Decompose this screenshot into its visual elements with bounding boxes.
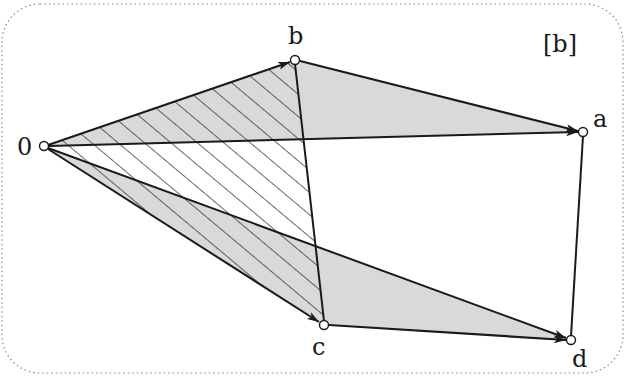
- vector-diagram: 0 b a c d [b]: [0, 0, 627, 377]
- point-a: [579, 128, 588, 137]
- point-b: [291, 56, 300, 65]
- label-origin: 0: [17, 133, 32, 161]
- label-d: d: [572, 345, 587, 373]
- point-origin: [40, 142, 49, 151]
- segment-a-d: [571, 136, 583, 336]
- point-d: [567, 336, 576, 345]
- panel-label: [b]: [543, 30, 577, 58]
- label-c: c: [312, 333, 325, 361]
- label-b: b: [288, 22, 303, 50]
- point-c: [320, 321, 329, 330]
- hatched-triangle-0bc: [44, 60, 324, 325]
- label-a: a: [593, 105, 607, 133]
